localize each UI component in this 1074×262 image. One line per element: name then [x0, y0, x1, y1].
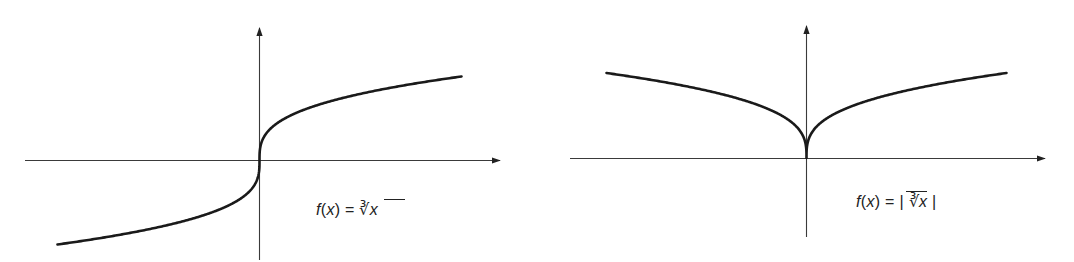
right-function-label: f(x) = | ∛x |: [856, 192, 937, 211]
cube-root-symbol: ∛: [909, 193, 919, 210]
abs-bar-close: |: [927, 193, 936, 210]
abs-bar-open: |: [899, 193, 908, 210]
cube-root-symbol: ∛: [359, 201, 369, 218]
left-plot: [25, 28, 500, 260]
figure-canvas: [0, 0, 1074, 262]
right-plot: [570, 26, 1045, 237]
left-function-label: f(x) = ∛x: [316, 200, 378, 219]
